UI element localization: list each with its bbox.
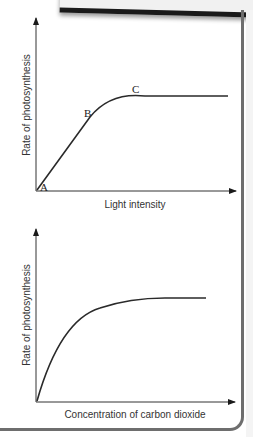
diagram-panel: A B C Light intensity Rate of photosynth… xyxy=(0,0,253,437)
point-a-label: A xyxy=(40,181,48,193)
graph-light-intensity: A B C Light intensity Rate of photosynth… xyxy=(21,18,236,210)
point-c-label: C xyxy=(132,83,139,95)
y-axis-label: Rate of photosynthesis xyxy=(21,264,32,366)
x-axis-label: Light intensity xyxy=(104,199,165,210)
x-axis-label: Concentration of carbon dioxide xyxy=(64,409,206,420)
graph-carbon-dioxide: Concentration of carbon dioxide Rate of … xyxy=(21,229,235,420)
rate-curve xyxy=(37,95,228,190)
rate-curve xyxy=(37,298,206,401)
y-axis-label: Rate of photosynthesis xyxy=(21,54,32,156)
point-b-label: B xyxy=(84,107,91,119)
graphs: A B C Light intensity Rate of photosynth… xyxy=(0,0,253,437)
